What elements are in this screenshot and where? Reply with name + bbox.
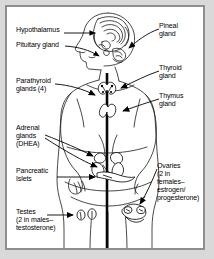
label-testes-line2: (2 in males– [16,216,53,224]
label-pineal-line1: Pineal [159,22,178,30]
label-thymus-line1: Thymus [159,92,183,100]
thymus-gland-shape [99,104,115,117]
label-hypothalamus: Hypothalamus [16,26,60,34]
label-testes-line1: Testes [16,208,36,216]
adrenal-gland-left-shape [94,153,105,163]
ovary-right-shape [137,206,145,213]
label-parathyroid-line2: glands (4) [16,85,46,93]
label-thyroid-line2: gland [159,72,176,80]
leader-ovaries [140,169,157,204]
label-ovaries-line4: estrogen/ [157,186,185,194]
adrenal-gland-right-shape [110,152,122,164]
diagram-frame: Hypothalamus Pituitary gland Parathyroid… [5,5,205,250]
label-pancreatic-line1: Pancreatic [16,167,48,175]
label-thyroid-line1: Thyroid [159,64,182,72]
label-testes-line3: testosterone) [16,224,56,232]
label-ovaries-line3: females– [157,178,185,186]
label-ovaries-line1: Ovaries [157,162,180,170]
leader-pituitary [65,46,99,56]
label-pituitary-gland: Pituitary gland [16,41,59,49]
label-adrenal-line3: (DHEA) [16,140,40,148]
label-ovaries-line5: progesterone) [157,194,199,202]
label-adrenal-line1: Adrenal [16,124,39,132]
label-parathyroid-line1: Parathyroid [16,77,51,85]
ovary-left-shape [124,207,132,214]
leader-thyroid [121,71,159,88]
label-adrenal-line2: glands [16,132,36,140]
label-pineal-line2: gland [159,30,176,38]
label-thymus-line2: gland [159,100,176,108]
label-pancreatic-line2: Islets [16,175,32,183]
leader-adrenal-2 [45,138,97,167]
label-ovaries-line2: (2 in [157,170,170,178]
